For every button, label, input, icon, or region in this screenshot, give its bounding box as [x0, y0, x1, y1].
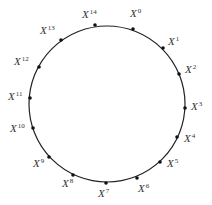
label-exponent: 4	[192, 132, 196, 140]
label-exponent: 11	[16, 90, 23, 98]
label-exponent: 6	[146, 182, 150, 190]
node-dot-x14	[93, 23, 97, 27]
node-dot-x12	[37, 65, 41, 69]
label-exponent: 3	[199, 100, 203, 108]
label-base: X	[33, 157, 40, 169]
node-label-x8: X8	[62, 178, 73, 189]
label-base: X	[191, 100, 198, 112]
label-base: X	[62, 177, 69, 189]
label-base: X	[14, 55, 21, 67]
node-label-x10: X10	[10, 123, 25, 134]
label-exponent: 0	[138, 7, 142, 15]
label-base: X	[130, 7, 137, 19]
label-base: X	[185, 63, 192, 75]
label-exponent: 10	[18, 122, 25, 130]
label-base: X	[82, 8, 89, 20]
node-label-x9: X9	[33, 158, 44, 169]
node-label-x2: X2	[185, 64, 196, 75]
label-base: X	[98, 187, 105, 199]
node-label-x7: X7	[98, 188, 109, 199]
node-label-x6: X6	[138, 183, 149, 194]
label-exponent: 12	[22, 55, 29, 63]
node-label-x5: X5	[167, 158, 178, 169]
node-dot-x11	[28, 96, 32, 100]
node-label-x1: X1	[168, 36, 179, 47]
label-base: X	[138, 182, 145, 194]
label-base: X	[167, 157, 174, 169]
node-label-x4: X4	[184, 133, 195, 144]
node-dot-x5	[158, 160, 162, 164]
label-base: X	[10, 122, 17, 134]
label-base: X	[40, 24, 47, 36]
node-dot-x10	[31, 126, 35, 130]
node-dot-x13	[59, 38, 63, 42]
label-exponent: 5	[175, 157, 179, 165]
node-dot-x4	[175, 135, 179, 139]
node-label-x13: X13	[40, 25, 55, 36]
node-dot-x6	[135, 176, 139, 180]
label-exponent: 13	[48, 24, 55, 32]
label-exponent: 1	[176, 35, 180, 43]
label-exponent: 8	[70, 177, 74, 185]
node-label-x11: X11	[8, 91, 22, 102]
label-exponent: 2	[193, 63, 197, 71]
label-exponent: 14	[90, 8, 97, 16]
node-dot-x3	[183, 106, 187, 110]
node-label-x14: X14	[82, 9, 97, 20]
label-base: X	[184, 132, 191, 144]
node-label-x12: X12	[14, 56, 29, 67]
ring-svg	[0, 0, 212, 205]
label-exponent: 7	[106, 187, 110, 195]
node-label-x3: X3	[191, 101, 202, 112]
cyclic-diagram: X0X1X2X3X4X5X6X7X8X9X10X11X12X13X14	[0, 0, 212, 205]
node-dot-x0	[131, 27, 135, 31]
node-dot-x9	[47, 155, 51, 159]
node-dot-x7	[104, 181, 108, 185]
label-base: X	[8, 90, 15, 102]
label-exponent: 9	[41, 157, 45, 165]
node-dot-x1	[161, 46, 165, 50]
ring-circle	[29, 26, 185, 182]
label-base: X	[168, 35, 175, 47]
node-dot-x2	[177, 72, 181, 76]
node-label-x0: X0	[130, 8, 141, 19]
node-dots	[28, 23, 187, 185]
